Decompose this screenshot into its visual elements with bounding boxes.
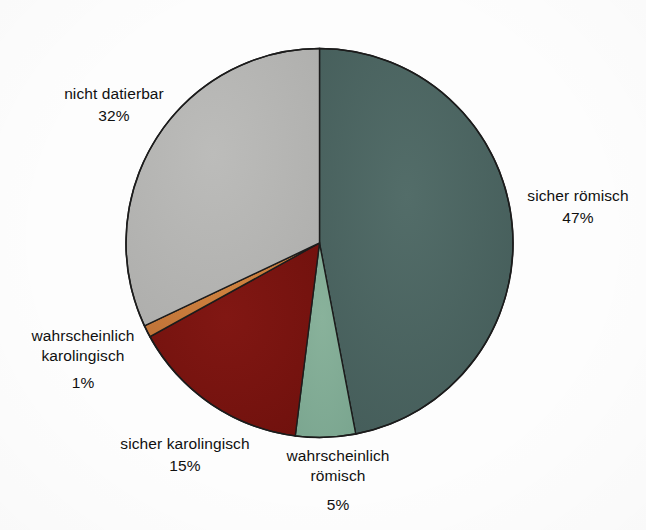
pie-label-nicht-datierbar-value: 32% <box>34 106 194 126</box>
pie-label-wahrscheinlich-roemisch-value: 5% <box>258 495 418 515</box>
pie-label-sicher-karolingisch-value: 15% <box>92 456 278 476</box>
pie-label-sicher-karolingisch: sicher karolingisch 15% <box>92 434 278 476</box>
pie-label-nicht-datierbar: nicht datierbar 32% <box>34 84 194 126</box>
pie-label-sicher-roemisch-text: sicher römisch <box>515 186 641 206</box>
pie-label-nicht-datierbar-text: nicht datierbar <box>34 84 194 104</box>
pie-label-wahrscheinlich-karolingisch-line2: karolingisch <box>8 346 158 366</box>
pie-label-wahrscheinlich-roemisch: wahrscheinlich römisch 5% <box>258 446 418 515</box>
pie-label-sicher-roemisch-value: 47% <box>515 208 641 228</box>
pie-chart-figure: nicht datierbar 32% sicher römisch 47% w… <box>0 0 646 530</box>
pie-label-wahrscheinlich-karolingisch: wahrscheinlich karolingisch 1% <box>8 326 158 393</box>
pie-slice-sicher-roemisch <box>320 49 513 435</box>
pie-label-sicher-roemisch: sicher römisch 47% <box>515 186 641 228</box>
pie-label-wahrscheinlich-karolingisch-line1: wahrscheinlich <box>8 326 158 346</box>
pie-label-wahrscheinlich-roemisch-line1: wahrscheinlich <box>258 446 418 466</box>
pie-label-wahrscheinlich-karolingisch-value: 1% <box>8 373 158 393</box>
pie-label-wahrscheinlich-roemisch-line2: römisch <box>258 466 418 486</box>
pie-label-sicher-karolingisch-text: sicher karolingisch <box>92 434 278 454</box>
